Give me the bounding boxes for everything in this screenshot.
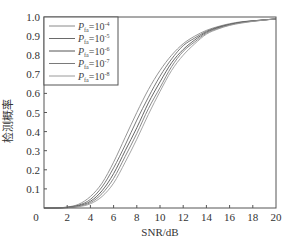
x-tick-label: 18: [247, 211, 259, 223]
y-tick-label: 1.0: [26, 11, 40, 23]
y-tick-label: 0.2: [26, 164, 40, 176]
x-tick-label: 6: [111, 211, 117, 223]
x-tick-label: 8: [134, 211, 140, 223]
y-axis-label: 检测概率: [1, 99, 14, 143]
legend: Pfa=10-4Pfa=10-5Pfa=10-6Pfa=10-7Pfa=10-8: [44, 17, 118, 85]
x-tick-label: 10: [155, 211, 167, 223]
x-tick-label: 16: [224, 211, 236, 223]
y-tick-label: 0.6: [26, 87, 40, 99]
y-tick-label: 0.1: [26, 183, 40, 195]
y-tick-label: 0.3: [26, 145, 40, 157]
y-tick-label: 0.4: [26, 126, 40, 138]
x-tick-label: 12: [178, 211, 189, 223]
x-tick-label: 2: [64, 211, 70, 223]
x-tick-label: 4: [88, 211, 94, 223]
detection-probability-chart: 02468101214161820 0.10.20.30.40.50.60.70…: [0, 0, 292, 245]
x-axis-label: SNR/dB: [141, 226, 178, 238]
x-tick-label: 0: [33, 211, 39, 223]
y-tick-label: 0.9: [26, 30, 40, 42]
x-tick-label: 20: [271, 211, 283, 223]
y-tick-label: 0.8: [26, 49, 40, 61]
y-tick-label: 0.7: [26, 68, 40, 80]
y-tick-label: 0.5: [26, 107, 40, 119]
x-tick-label: 14: [201, 211, 213, 223]
